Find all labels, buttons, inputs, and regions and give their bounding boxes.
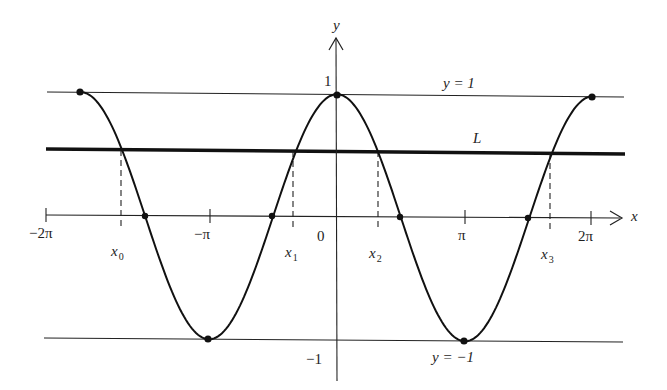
zero-point (397, 214, 403, 220)
y-tick-minus-1: −1 (306, 352, 322, 367)
line-y-equals-minus-1 (44, 338, 623, 342)
y-axis (329, 38, 343, 381)
label-x3: x3 (541, 247, 554, 262)
min-point (460, 337, 467, 344)
zero-point (142, 213, 148, 219)
label-x2: x2 (369, 246, 382, 261)
x-tick-2pi: 2π (578, 229, 593, 244)
label-L: L (473, 131, 481, 146)
x-axis-label: x (631, 209, 638, 224)
x1-var: x (285, 244, 292, 260)
dashed-drop-lines (121, 150, 550, 232)
max-point (588, 93, 595, 100)
max-point (76, 88, 83, 95)
label-y-equals-1: y = 1 (443, 76, 475, 91)
y-tick-1: 1 (324, 74, 332, 89)
x3-var: x (541, 246, 548, 262)
y-axis-label: y (333, 18, 340, 33)
min-point (204, 335, 211, 342)
zero-point (269, 213, 275, 219)
line-L (46, 149, 625, 154)
max-point (333, 91, 340, 98)
origin-label: 0 (317, 229, 325, 244)
label-x0: x0 (111, 244, 124, 259)
x-tick-minus-pi: −π (194, 227, 210, 242)
x3-subscript: 3 (549, 254, 554, 265)
x1-subscript: 1 (293, 252, 298, 263)
x2-var: x (369, 245, 376, 261)
x-tick-minus-2pi: −2π (29, 226, 53, 241)
x-axis (46, 208, 622, 225)
x0-subscript: 0 (119, 251, 124, 262)
zero-point (525, 215, 531, 221)
x2-subscript: 2 (377, 253, 382, 264)
x-tick-pi: π (458, 228, 466, 243)
x0-var: x (111, 243, 118, 259)
label-y-equals-minus-1: y = −1 (432, 350, 474, 365)
cosine-graph (0, 0, 667, 390)
label-x1: x1 (285, 245, 298, 260)
